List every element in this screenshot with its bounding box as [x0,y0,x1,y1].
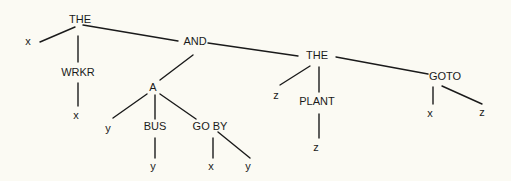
tree-nodes: THExWRKRxANDAyBUSyGO BYxyTHEzPLANTzGOTOx… [25,13,485,172]
node-x2: x [73,109,79,121]
node-goto: GOTO [429,70,462,82]
node-wrkr: WRKR [61,66,95,78]
node-x4: x [427,107,433,119]
node-x1: x [25,35,31,47]
node-and: AND [183,35,206,47]
node-y2: y [150,160,156,172]
node-a: A [149,81,157,93]
node-the1: THE [69,13,91,25]
edge-and-the2 [208,43,298,56]
edge-goto-z3 [442,86,482,104]
node-goby: GO BY [193,120,229,132]
edge-and-a [160,55,193,80]
edge-the1-x1 [40,27,75,42]
edge-the1-and [83,25,178,41]
node-bus: BUS [144,120,167,132]
edge-the2-goto [336,57,428,74]
node-y1: y [105,122,111,134]
node-z2: z [313,141,319,153]
tree-edges [40,25,482,158]
edge-a-y1 [113,94,147,118]
node-the2: THE [306,49,328,61]
node-y3: y [245,160,251,172]
edge-the2-z1 [280,66,310,85]
edge-a-goby [160,94,196,119]
edge-goby-y3 [218,132,250,158]
node-z1: z [273,89,279,101]
node-x3: x [208,160,214,172]
node-z3: z [479,106,485,118]
node-plant: PLANT [299,95,335,107]
tree-diagram: THExWRKRxANDAyBUSyGO BYxyTHEzPLANTzGOTOx… [0,0,511,181]
